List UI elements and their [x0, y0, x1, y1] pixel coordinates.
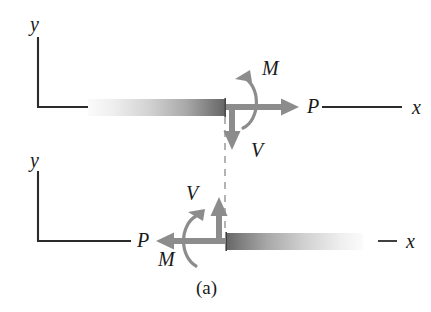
- upper-x-axis-label: x: [412, 97, 421, 117]
- upper-shear-arrow: [224, 108, 241, 150]
- upper-axis-corner: [38, 38, 92, 107]
- upper-axial-force-arrow: [226, 99, 299, 116]
- upper-axial-force-label: P: [307, 96, 319, 116]
- lower-beam: [226, 231, 368, 254]
- lower-axis-corner: [38, 172, 130, 241]
- lower-axial-force-arrow: [156, 233, 225, 250]
- lower-moment-arc: [184, 209, 205, 266]
- lower-axes: [38, 172, 130, 241]
- lower-x-axis-label: x: [406, 231, 415, 251]
- free-body-diagram: [0, 0, 431, 312]
- lower-shear-arrow: [211, 197, 228, 240]
- upper-axes: [38, 38, 92, 107]
- figure-container: y x P M V y x P M V (a): [0, 0, 431, 312]
- lower-beam-body: [226, 233, 363, 250]
- lower-shear-label: V: [186, 183, 198, 203]
- upper-moment-arc: [235, 70, 256, 128]
- figure-caption: (a): [196, 278, 217, 297]
- upper-beam: [84, 97, 226, 120]
- lower-axial-force-label: P: [137, 230, 149, 250]
- upper-moment-label: M: [262, 58, 279, 78]
- upper-shear-label: V: [251, 140, 263, 160]
- upper-y-axis-label: y: [30, 14, 39, 34]
- lower-y-axis-label: y: [30, 150, 39, 170]
- lower-moment-label: M: [158, 249, 175, 269]
- upper-beam-body: [88, 99, 225, 116]
